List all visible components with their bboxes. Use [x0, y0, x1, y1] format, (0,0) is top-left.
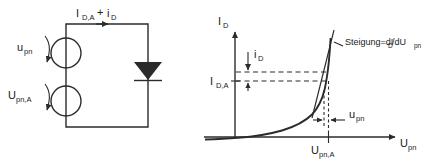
circuit-group: I D,A + i D u pn U pn,A: [8, 6, 162, 127]
bias-source-arrow: [45, 84, 49, 110]
diode-triangle: [134, 62, 162, 80]
small-signal-source-label-sub: pn: [24, 47, 32, 56]
y-axis-label-base: I: [218, 15, 221, 27]
bias-source-label-base: U: [8, 89, 16, 101]
circuit-loop-wire: [66, 24, 148, 127]
small-signal-voltage-label-sub: pn: [356, 114, 364, 123]
bias-source-label-sub: pn,A: [16, 95, 31, 104]
operating-current-label-base: I: [210, 75, 213, 87]
slope-annotation-part1: Steigung=dI: [345, 37, 393, 47]
operating-voltage-label-sub: pn,A: [319, 150, 334, 159]
small-signal-current-label-sub: D: [258, 54, 264, 63]
small-signal-current-label-base: i: [254, 48, 256, 60]
current-label-base2: i: [107, 7, 109, 19]
operating-voltage-label-base: U: [311, 144, 319, 156]
x-axis-label-sub: pn: [408, 143, 416, 152]
diode-figure-svg: I D,A + i D u pn U pn,A I D U pn: [0, 0, 436, 164]
x-axis-label-base: U: [400, 137, 408, 149]
slope-annotation-sub2: pn: [414, 42, 422, 50]
chart-group: I D U pn: [204, 15, 422, 159]
small-signal-source-arrow: [45, 36, 49, 62]
operating-current-label-sub: D,A: [216, 81, 229, 90]
small-signal-source-label-base: u: [17, 41, 23, 53]
small-signal-voltage-label-base: u: [349, 108, 355, 120]
current-label-operator: +: [97, 6, 103, 18]
slope-annotation-part2: /dU: [392, 37, 406, 47]
current-label-base1: I: [76, 7, 79, 19]
y-axis-label-sub: D: [223, 21, 229, 30]
figure-canvas: I D,A + i D u pn U pn,A I D U pn: [0, 0, 436, 164]
slope-leader-line: [334, 42, 343, 46]
current-label-sub2: D: [111, 13, 117, 22]
current-label-sub1: D,A: [82, 13, 95, 22]
tangent-line: [312, 30, 334, 118]
